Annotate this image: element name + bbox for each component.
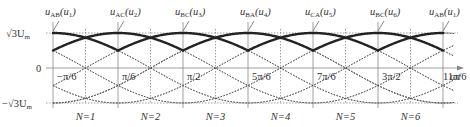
voltage-label: uBA(u4) [240, 6, 271, 19]
voltage-label: uAB(u1) [429, 6, 460, 19]
x-tick-label: 3π/2 [382, 71, 401, 82]
x-tick-label: π/6 [122, 71, 135, 82]
leader-line [53, 21, 59, 31]
leader-line [378, 21, 384, 31]
sector-label: N=2 [140, 111, 161, 122]
y-label-zero: 0 [36, 63, 41, 74]
voltage-label: uBC(u6) [370, 6, 401, 19]
voltage-label: uAB(u1) [45, 6, 76, 19]
sector-label: N=3 [205, 111, 225, 122]
y-label-bottom: −√3Um [2, 98, 33, 111]
leader-line [313, 21, 319, 31]
voltage-label: uBC(u3) [175, 6, 206, 19]
x-axis-label: ωt [450, 71, 461, 82]
leader-line [183, 21, 189, 31]
sector-label: N=1 [75, 111, 95, 122]
six-pulse-diagram: √3Um0−√3Um−π/6π/6π/25π/67π/63π/211π/6ωtu… [0, 0, 470, 127]
labels: √3Um0−√3Um−π/6π/6π/25π/67π/63π/211π/6ωtu… [2, 6, 467, 122]
arrow-icon [457, 66, 464, 71]
voltage-label: uCA(u5) [305, 6, 336, 19]
x-tick-label: −π/6 [57, 71, 76, 82]
leader-line [443, 21, 449, 31]
voltage-label: uAC(u2) [110, 6, 141, 19]
y-label-top: √3Um [6, 28, 31, 41]
sector-label: N=6 [400, 111, 421, 122]
leader-line [248, 21, 254, 31]
x-tick-label: 7π/6 [317, 71, 336, 82]
x-tick-label: 5π/6 [252, 71, 271, 82]
x-tick-label: π/2 [187, 71, 200, 82]
sector-label: N=4 [270, 111, 291, 122]
leader-line [118, 21, 124, 31]
sector-label: N=5 [335, 111, 355, 122]
